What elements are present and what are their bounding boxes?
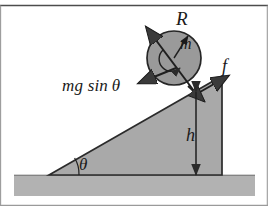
- gravity-component-label: mg sin θ: [62, 77, 120, 94]
- height-label: h: [186, 126, 195, 144]
- gravity-component-theta: θ: [112, 76, 121, 95]
- radius-label: R: [176, 9, 188, 28]
- ground-slab: [14, 175, 255, 196]
- mass-label: m: [180, 36, 192, 52]
- friction-label: f: [222, 57, 227, 75]
- physics-diagram-figure: R m f mg sin θ h θ: [0, 0, 268, 206]
- incline-angle-label: θ: [79, 156, 88, 173]
- gravity-component-text: mg sin: [62, 76, 108, 95]
- diagram-canvas: [0, 0, 268, 206]
